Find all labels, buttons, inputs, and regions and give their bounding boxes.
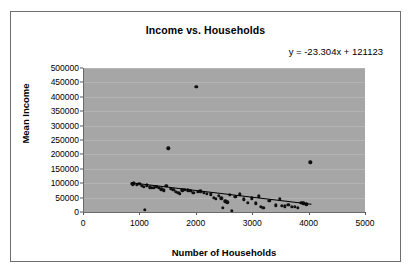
- x-axis-tick-label: 3000: [243, 218, 262, 228]
- x-axis-tick-label: 5000: [356, 218, 375, 228]
- y-axis-tick-label: 350000: [51, 106, 79, 116]
- x-axis-line: [83, 212, 365, 213]
- y-axis-tick-label: 450000: [51, 77, 79, 87]
- y-axis-tick-label: 500000: [51, 63, 79, 73]
- y-axis-line: [83, 68, 84, 212]
- y-axis-title: Mean Income: [20, 74, 31, 154]
- chart-title: Income vs. Households: [11, 24, 400, 36]
- y-axis-tick-label: 150000: [51, 164, 79, 174]
- trendline: [83, 68, 365, 212]
- y-axis-tick-label: 0: [74, 207, 79, 217]
- x-axis-tick-label: 1000: [130, 218, 149, 228]
- y-axis-tick-label: 300000: [51, 121, 79, 131]
- x-axis-tick-label: 0: [81, 218, 86, 228]
- plot-area: 0500001000001500002000002500003000003500…: [83, 68, 365, 212]
- y-axis-tick-label: 100000: [51, 178, 79, 188]
- y-axis-tick-label: 400000: [51, 92, 79, 102]
- x-axis-tick-label: 2000: [186, 218, 205, 228]
- y-axis-tick-label: 200000: [51, 149, 79, 159]
- trendline-equation-label: y = -23.304x + 121123: [289, 46, 383, 57]
- y-axis-tick-label: 50000: [55, 193, 79, 203]
- x-axis-tick-mark: [365, 212, 366, 215]
- chart-frame: Income vs. Households y = -23.304x + 121…: [10, 11, 401, 262]
- x-axis-tick-label: 4000: [299, 218, 318, 228]
- y-axis-tick-label: 250000: [51, 135, 79, 145]
- x-axis-title: Number of Households: [83, 247, 365, 258]
